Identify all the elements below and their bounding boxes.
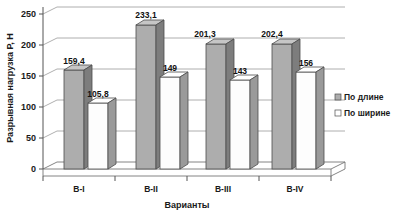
- bar-series-po-shirine-cat-1: [160, 72, 188, 169]
- legend-item-po-shirine[interactable]: По ширине: [335, 108, 391, 118]
- data-label-s2-c0: 105,8: [87, 89, 109, 99]
- x-tick-label-3: В-IV: [287, 184, 304, 194]
- x-tick-label-0: В-I: [73, 184, 84, 194]
- data-label-s1-c3: 202,4: [261, 29, 283, 39]
- y-tick-label-200: 200: [21, 40, 36, 50]
- legend-swatch-po-shirine: [335, 110, 341, 116]
- y-axis: [39, 7, 43, 169]
- y-tick-label-250: 250: [21, 9, 36, 19]
- legend-swatch-po-dline: [335, 94, 341, 100]
- bar-series-po-shirine-cat-2: [230, 75, 258, 169]
- data-label-s2-c1: 149: [163, 63, 177, 73]
- bar-chart-3d: 250 200 150 100 50 0 Разрывная нагрузка …: [0, 0, 398, 213]
- bar-series-po-shirine-cat-0: [88, 98, 116, 169]
- y-tick-label-0: 0: [31, 164, 36, 174]
- data-label-s1-c1: 233,1: [135, 10, 157, 20]
- legend-label-po-shirine: По ширине: [344, 108, 391, 118]
- data-label-s2-c3: 156: [299, 58, 313, 68]
- bar-group-0: [64, 65, 116, 169]
- x-axis-title: Варианты: [164, 200, 209, 210]
- y-tick-label-150: 150: [21, 71, 36, 81]
- bar-series-po-shirine-cat-3: [296, 67, 324, 169]
- y-tick-label-50: 50: [26, 133, 36, 143]
- data-label-s2-c2: 143: [233, 66, 247, 76]
- legend-item-po-dline[interactable]: По длине: [335, 92, 384, 102]
- data-label-s1-c0: 159,4: [63, 56, 85, 66]
- data-label-s1-c2: 201,3: [194, 29, 216, 39]
- y-axis-title: Разрывная нагрузка Р, Н: [5, 33, 15, 143]
- x-axis-ticks: [43, 176, 331, 181]
- legend-label-po-dline: По длине: [344, 92, 384, 102]
- bar-group-1: [136, 20, 188, 169]
- chart-container: 250 200 150 100 50 0 Разрывная нагрузка …: [0, 0, 398, 213]
- y-tick-label-100: 100: [21, 102, 36, 112]
- legend: По длине По ширине: [335, 92, 391, 118]
- bar-group-2: [206, 39, 258, 169]
- x-tick-label-2: В-III: [215, 184, 231, 194]
- x-tick-label-1: В-II: [144, 184, 158, 194]
